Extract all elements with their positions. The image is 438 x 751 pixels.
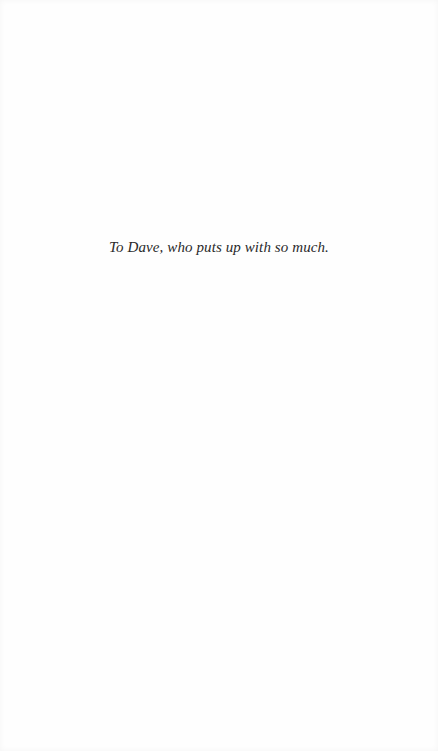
- book-page: To Dave, who puts up with so much.: [0, 0, 438, 751]
- dedication-text: To Dave, who puts up with so much.: [0, 237, 438, 257]
